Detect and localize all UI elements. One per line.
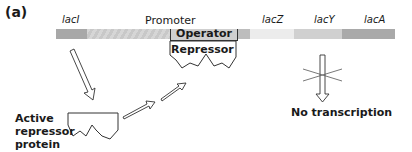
active-repressor-caption: Active repressor protein bbox=[15, 112, 75, 151]
arrow-laci-to-repressor bbox=[70, 49, 95, 100]
bound-repressor-label: Repressor bbox=[171, 43, 234, 56]
caption-line-2: repressor bbox=[15, 125, 75, 138]
arrow-repressor-binding-1 bbox=[123, 101, 155, 119]
blocked-transcription-arrow bbox=[316, 55, 329, 102]
caption-line-1: Active bbox=[15, 112, 75, 125]
arrow-repressor-binding-2 bbox=[161, 83, 186, 101]
active-repressor-shape bbox=[68, 113, 118, 139]
caption-line-3: protein bbox=[15, 138, 75, 151]
no-transcription-caption: No transcription bbox=[291, 106, 392, 119]
